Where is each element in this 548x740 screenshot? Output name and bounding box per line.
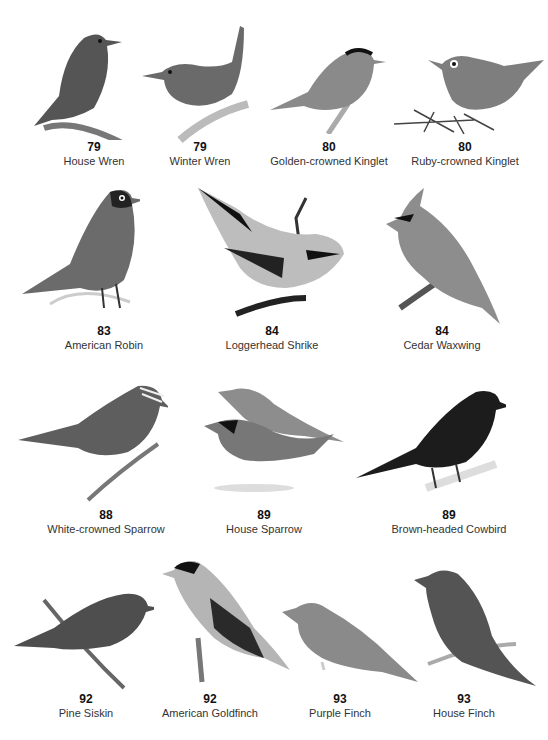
american-goldfinch-illustration [154,558,294,688]
golden-crowned-kinglet-entry: 80 Golden-crowned Kinglet [264,140,394,168]
american-robin-entry: 83 American Robin [54,324,154,352]
bird-name: Loggerhead Shrike [214,338,330,352]
purple-finch-illustration [282,598,418,688]
bird-name: White-crowned Sparrow [36,522,176,536]
winter-wren-illustration [140,24,250,144]
pine-siskin-entry: 92 Pine Siskin [36,692,136,720]
bird-name: Pine Siskin [36,706,136,720]
page-number: 79 [44,140,144,154]
american-goldfinch-entry: 92 American Goldfinch [150,692,270,720]
house-sparrow-entry: 89 House Sparrow [214,508,314,536]
house-sparrow-illustration [204,384,354,494]
brown-headed-cowbird-illustration [356,388,506,498]
ruby-crowned-kinglet-illustration [394,50,544,134]
page-number: 80 [400,140,530,154]
page-number: 83 [54,324,154,338]
winter-wren-entry: 79 Winter Wren [150,140,250,168]
page-number: 89 [214,508,314,522]
bird-name: Ruby-crowned Kinglet [400,154,530,168]
loggerhead-shrike-entry: 84 Loggerhead Shrike [214,324,330,352]
page-number: 92 [150,692,270,706]
house-wren-entry: 79 House Wren [44,140,144,168]
white-crowned-sparrow-entry: 88 White-crowned Sparrow [36,508,176,536]
page-number: 92 [36,692,136,706]
page-number: 89 [384,508,514,522]
bird-name: Golden-crowned Kinglet [264,154,394,168]
bird-name: House Finch [414,706,514,720]
page-number: 84 [214,324,330,338]
ruby-crowned-kinglet-entry: 80 Ruby-crowned Kinglet [400,140,530,168]
purple-finch-entry: 93 Purple Finch [290,692,390,720]
loggerhead-shrike-illustration [196,188,346,318]
bird-name: Cedar Waxwing [392,338,492,352]
bird-name: House Sparrow [214,522,314,536]
cedar-waxwing-entry: 84 Cedar Waxwing [392,324,492,352]
cedar-waxwing-illustration [384,188,504,328]
house-finch-illustration [412,566,540,690]
page-number: 88 [36,508,176,522]
bird-name: House Wren [44,154,144,168]
brown-headed-cowbird-entry: 89 Brown-headed Cowbird [384,508,514,536]
bird-name: Winter Wren [150,154,250,168]
page-number: 93 [290,692,390,706]
page-number: 80 [264,140,394,154]
bird-name: American Robin [54,338,154,352]
pine-siskin-illustration [14,590,154,690]
bird-name: American Goldfinch [150,706,270,720]
page-number: 84 [392,324,492,338]
page-number: 79 [150,140,250,154]
golden-crowned-kinglet-illustration [268,44,392,134]
bird-name: Purple Finch [290,706,390,720]
house-finch-entry: 93 House Finch [414,692,514,720]
american-robin-illustration [20,184,140,314]
bird-name: Brown-headed Cowbird [384,522,514,536]
house-wren-illustration [14,16,134,140]
white-crowned-sparrow-illustration [18,382,168,502]
page-number: 93 [414,692,514,706]
